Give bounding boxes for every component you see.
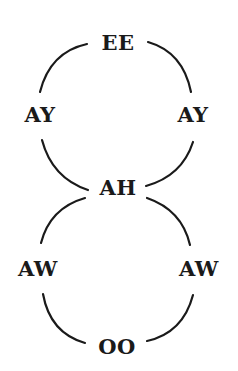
- vowel-diagram: EE AY AY AH AW AW OO: [0, 0, 238, 371]
- arc-ay-left-ah: [42, 140, 88, 190]
- arc-ah-aw-right: [147, 198, 190, 245]
- node-ay-left: AY: [24, 102, 55, 127]
- arc-ay-right-ah: [146, 142, 193, 186]
- node-ay-right: AY: [177, 102, 208, 127]
- arc-ah-aw-left: [41, 198, 85, 243]
- arc-aw-left-oo: [43, 294, 85, 343]
- node-ee: EE: [101, 30, 134, 55]
- node-aw-right: AW: [179, 256, 219, 281]
- node-aw-left: AW: [18, 256, 58, 281]
- node-oo: OO: [98, 334, 136, 359]
- arc-ee-ay-left: [40, 44, 87, 92]
- node-ah: AH: [99, 175, 136, 200]
- arc-aw-right-oo: [147, 295, 193, 341]
- arc-ee-ay-right: [148, 42, 191, 92]
